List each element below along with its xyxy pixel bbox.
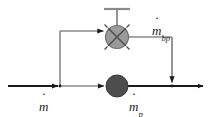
pump[interactable] (106, 75, 128, 97)
bypass-mass-flow-label: mbp (152, 22, 170, 41)
mixer-junction-node (171, 85, 174, 88)
valve-handle[interactable] (104, 9, 130, 25)
valve-seat-tick-bottom-left (105, 47, 108, 50)
valve-seat-tick-top-right (127, 25, 130, 28)
flow-diagram: mbp m mp (0, 0, 211, 117)
pump-body-circle (106, 75, 128, 97)
inlet-mass-flow-label: m (39, 98, 48, 117)
flow-diagram-canvas (0, 0, 211, 117)
inlet-mdot-symbol: m (39, 100, 48, 113)
valve-seat-tick-top-left (105, 25, 108, 28)
splitter-junction-node (59, 85, 62, 88)
valve-seat-tick-bottom-right (127, 47, 130, 50)
pump-mdot-subscript: p (138, 109, 142, 117)
bypass-control-valve[interactable] (105, 25, 130, 50)
pump-mdot-symbol: m (129, 100, 138, 113)
bypass-mdot-subscript: bp (161, 33, 170, 43)
bypass-mdot-symbol: m (152, 24, 161, 37)
pump-mass-flow-label: mp (129, 98, 143, 117)
